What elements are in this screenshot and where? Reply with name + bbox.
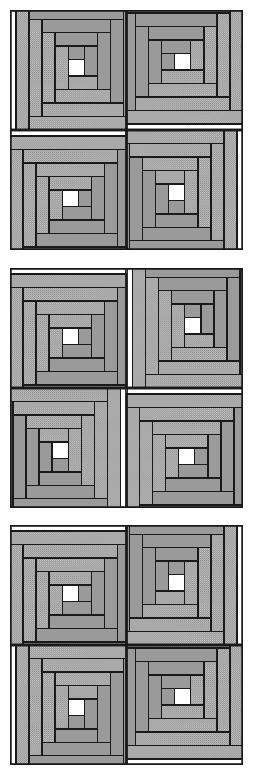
- log-light-12: [29, 658, 42, 755]
- log-light-3: [49, 328, 62, 358]
- log-light-15: [29, 645, 126, 658]
- quilt-panel-3: [10, 525, 243, 765]
- quilt-block-top-left: [10, 526, 127, 645]
- log-light-11: [42, 658, 123, 671]
- log-dark-2: [162, 40, 191, 53]
- log-light-4: [49, 315, 91, 328]
- log-dark-5: [91, 315, 104, 358]
- log-dark-6: [149, 662, 204, 675]
- log-light-16: [127, 110, 244, 123]
- log-light-12: [136, 732, 230, 745]
- block-center-square: [62, 190, 78, 207]
- panel-2-canvas: [10, 268, 243, 508]
- log-light-11: [130, 618, 211, 631]
- log-light-7: [55, 90, 110, 103]
- log-light-4: [185, 561, 198, 604]
- log-dark-9: [143, 227, 211, 240]
- log-dark-2: [62, 345, 91, 358]
- log-dark-6: [26, 428, 39, 485]
- log-light-11: [159, 361, 240, 374]
- log-light-12: [29, 19, 42, 116]
- log-light-7: [36, 177, 49, 234]
- log-light-12: [211, 534, 224, 631]
- quilt-block-bottom-left: [10, 388, 126, 508]
- log-light-16: [224, 130, 237, 250]
- log-dark-9: [136, 27, 149, 97]
- block-center-square: [175, 688, 191, 705]
- log-light-15: [230, 10, 243, 110]
- log-dark-9: [42, 742, 110, 755]
- log-dark-10: [130, 157, 143, 241]
- log-dark-5: [156, 548, 198, 561]
- log-light-7: [143, 605, 198, 618]
- log-light-12: [23, 545, 117, 558]
- log-light-7: [36, 572, 49, 629]
- block-center-square: [169, 184, 185, 201]
- log-dark-9: [104, 558, 117, 628]
- log-light-16: [107, 388, 120, 508]
- log-dark-1: [78, 585, 91, 602]
- log-dark-9: [104, 301, 117, 371]
- log-light-8: [81, 415, 94, 485]
- log-light-12: [94, 401, 107, 498]
- log-light-4: [68, 428, 81, 471]
- block-center-square: [169, 575, 185, 592]
- log-light-12: [23, 150, 117, 163]
- log-dark-6: [149, 27, 204, 40]
- log-light-11: [23, 163, 36, 247]
- block-center-square: [52, 442, 68, 459]
- log-light-11: [217, 648, 230, 732]
- log-dark-1: [78, 328, 91, 345]
- log-dark-9: [221, 421, 234, 491]
- log-light-8: [153, 421, 221, 434]
- log-light-3: [49, 190, 62, 220]
- log-light-16: [10, 274, 127, 287]
- log-light-4: [172, 304, 185, 347]
- log-dark-2: [156, 184, 169, 214]
- log-dark-2: [39, 442, 52, 472]
- log-light-16: [10, 136, 127, 149]
- block-center-square: [68, 699, 84, 716]
- log-light-11: [13, 401, 94, 414]
- log-light-12: [211, 143, 224, 240]
- log-dark-1: [52, 458, 68, 471]
- log-dark-10: [130, 534, 143, 618]
- log-light-4: [49, 572, 91, 585]
- log-light-7: [172, 348, 227, 361]
- log-light-15: [10, 150, 23, 250]
- log-dark-6: [49, 358, 104, 371]
- log-dark-5: [208, 435, 221, 478]
- log-dark-5: [172, 291, 214, 304]
- block-center-square: [185, 318, 201, 335]
- log-dark-1: [185, 304, 201, 317]
- log-light-16: [16, 645, 29, 765]
- log-dark-2: [156, 561, 169, 591]
- quilt-block-bottom-right: [127, 389, 244, 508]
- log-dark-5: [55, 729, 97, 742]
- log-light-11: [140, 421, 153, 505]
- log-dark-10: [36, 371, 117, 384]
- quilt-block-top-left: [11, 10, 127, 130]
- log-dark-5: [156, 214, 198, 227]
- log-dark-2: [84, 699, 97, 729]
- log-light-15: [29, 117, 126, 130]
- log-dark-9: [136, 662, 149, 732]
- log-light-16: [10, 531, 127, 544]
- log-light-16: [16, 10, 29, 130]
- log-dark-10: [36, 233, 117, 246]
- log-dark-9: [143, 534, 211, 547]
- log-dark-10: [153, 491, 234, 504]
- log-dark-5: [91, 177, 104, 220]
- log-dark-5: [39, 472, 81, 485]
- quilt-block-top-right: [127, 525, 243, 645]
- log-dark-5: [149, 675, 162, 718]
- log-light-7: [26, 415, 81, 428]
- quilt-block-bottom-left: [11, 645, 127, 765]
- log-light-3: [49, 585, 62, 615]
- log-light-4: [55, 46, 68, 89]
- log-dark-1: [68, 715, 84, 728]
- log-dark-9: [26, 485, 94, 498]
- quilt-block-top-right: [127, 268, 243, 388]
- log-light-8: [42, 672, 55, 742]
- quilt-diagram-sheet: [0, 0, 254, 776]
